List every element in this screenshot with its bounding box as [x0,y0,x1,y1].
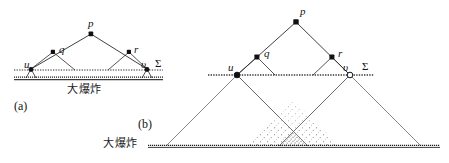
panel-a-label-p: p [88,18,94,29]
panel-a-label-u: u [24,59,30,70]
panel-a-graphic [14,32,163,80]
panel-a-label-q: q [59,44,65,55]
panel-b-label-r: r [338,48,342,59]
panel-b-bigbang-label: 大爆炸 [103,138,138,149]
panel-a-bigbang-line [14,77,163,79]
panel-a-label-sigma: Σ [155,58,161,69]
panel-b-caption: (b) [138,118,152,130]
panel-b-label-v: υ [343,62,348,73]
panel-a-caption: (a) [14,100,27,112]
panel-b-label-sigma: Σ [362,61,368,72]
panel-a-sub-cones [31,52,147,70]
panel-a-label-r: r [134,44,138,55]
panel-a-boundary-dots [29,67,149,71]
panel-b-boundary-dots [234,72,353,78]
panel-b-label-u: u [228,62,234,73]
panel-a-label-v: υ [141,59,146,70]
figure-canvas [0,0,449,163]
figure-root: p q r u υ Σ 大爆炸 (a) p q r u υ Σ 大爆炸 (b) [0,0,449,163]
panel-b-label-q: q [264,48,270,59]
panel-b-main-cone [237,22,350,75]
panel-b-graphic [148,19,440,147]
panel-b-sub-cones [237,57,350,75]
panel-a-bigbang-label: 大爆炸 [67,84,102,95]
panel-b-bigbang-line [148,145,440,147]
panel-b-label-p: p [300,6,306,17]
